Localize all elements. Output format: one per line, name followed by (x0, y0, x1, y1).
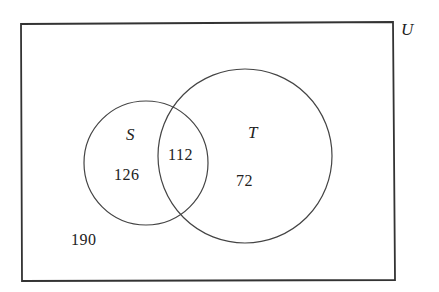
intersection-count: 112 (168, 146, 193, 163)
venn-diagram: U S T 126 112 72 190 (0, 0, 439, 292)
outside-count: 190 (71, 231, 97, 248)
universe-label: U (401, 20, 415, 39)
set-t-label: T (248, 123, 259, 142)
set-s-label: S (126, 125, 135, 144)
set-s-circle (84, 101, 208, 225)
s-only-count: 126 (114, 166, 140, 183)
t-only-count: 72 (236, 172, 253, 189)
